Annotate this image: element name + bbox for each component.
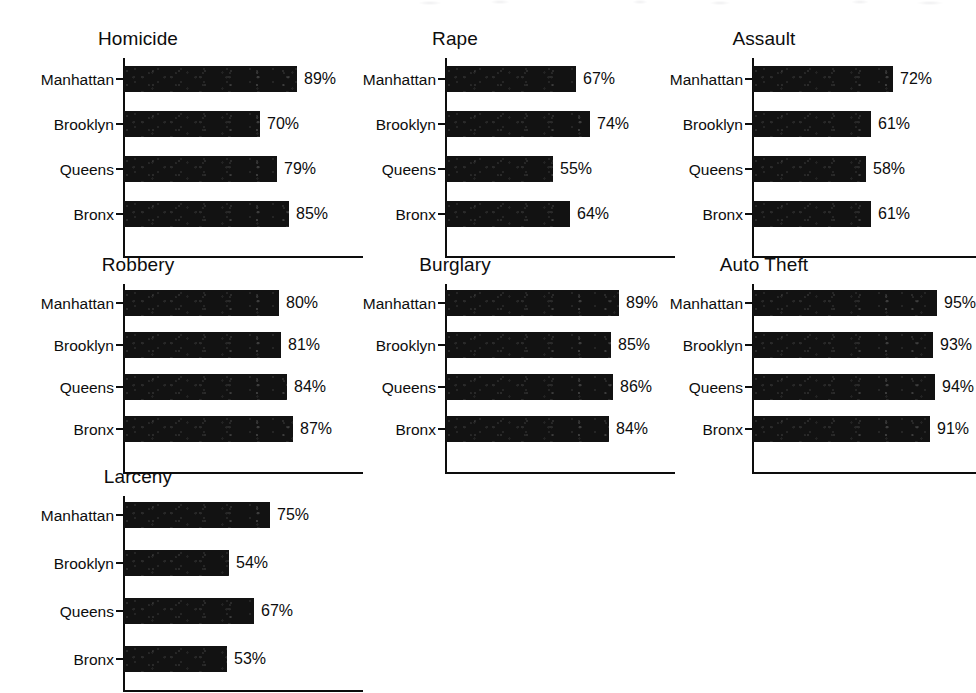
y-axis-tick: [116, 514, 123, 516]
bar-value-label: 75%: [277, 506, 309, 524]
y-axis-tick: [116, 302, 123, 304]
bar-row: Queens86%: [445, 374, 675, 400]
category-label: Brooklyn: [376, 337, 436, 354]
bar: [446, 66, 576, 92]
chart-title: Robbery: [18, 254, 258, 276]
y-axis-tick: [745, 123, 752, 125]
category-label: Bronx: [396, 206, 437, 223]
bar-row: Bronx53%: [123, 646, 363, 672]
y-axis-tick: [116, 610, 123, 612]
scan-artifact: [300, 0, 976, 9]
bar-value-label: 94%: [942, 378, 974, 396]
bar-row: Bronx61%: [752, 201, 976, 227]
category-label: Brooklyn: [54, 555, 114, 572]
bar: [124, 598, 254, 624]
bar-value-label: 89%: [626, 294, 658, 312]
category-label: Manhattan: [41, 71, 114, 88]
bar: [124, 502, 270, 528]
x-axis-line: [445, 472, 675, 474]
bar-value-label: 79%: [284, 160, 316, 178]
plot-area: Manhattan75%Brooklyn54%Queens67%Bronx53%: [123, 496, 363, 692]
y-axis-tick: [745, 78, 752, 80]
bar-row: Brooklyn54%: [123, 550, 363, 576]
bar: [753, 111, 871, 137]
bar: [446, 156, 553, 182]
bar-value-label: 64%: [577, 205, 609, 223]
category-label: Queens: [60, 161, 114, 178]
category-label: Bronx: [74, 651, 115, 668]
y-axis-tick: [745, 168, 752, 170]
y-axis-tick: [745, 302, 752, 304]
category-label: Manhattan: [41, 295, 114, 312]
bar-value-label: 93%: [940, 336, 972, 354]
bar-value-label: 61%: [878, 205, 910, 223]
bar-row: Queens55%: [445, 156, 675, 182]
y-axis-tick: [438, 78, 445, 80]
bar-value-label: 85%: [296, 205, 328, 223]
y-axis-tick: [116, 428, 123, 430]
bar: [446, 332, 611, 358]
bar: [124, 374, 287, 400]
category-label: Manhattan: [670, 71, 743, 88]
bar-row: Manhattan95%: [752, 290, 976, 316]
bar: [124, 646, 227, 672]
bar-value-label: 67%: [261, 602, 293, 620]
bar-value-label: 91%: [937, 420, 969, 438]
category-label: Queens: [689, 379, 743, 396]
bar-row: Bronx84%: [445, 416, 675, 442]
category-label: Queens: [60, 603, 114, 620]
category-label: Manhattan: [363, 71, 436, 88]
category-label: Queens: [382, 379, 436, 396]
y-axis-tick: [438, 168, 445, 170]
bar: [753, 156, 866, 182]
bar-value-label: 80%: [286, 294, 318, 312]
bar: [446, 201, 570, 227]
bar-value-label: 72%: [900, 70, 932, 88]
plot-area: Manhattan89%Brooklyn70%Queens79%Bronx85%: [123, 58, 363, 258]
bar-row: Manhattan72%: [752, 66, 976, 92]
y-axis-tick: [745, 213, 752, 215]
bar-row: Queens94%: [752, 374, 976, 400]
bar-value-label: 55%: [560, 160, 592, 178]
category-label: Bronx: [396, 421, 437, 438]
bar-value-label: 61%: [878, 115, 910, 133]
bar: [124, 290, 279, 316]
bar: [446, 374, 613, 400]
category-label: Bronx: [703, 421, 744, 438]
bar: [446, 416, 609, 442]
category-label: Queens: [60, 379, 114, 396]
bar-row: Queens79%: [123, 156, 363, 182]
category-label: Bronx: [74, 206, 115, 223]
bar-value-label: 87%: [300, 420, 332, 438]
bar-row: Manhattan75%: [123, 502, 363, 528]
y-axis-tick: [438, 123, 445, 125]
bar-row: Queens67%: [123, 598, 363, 624]
plot-area: Manhattan72%Brooklyn61%Queens58%Bronx61%: [752, 58, 976, 258]
category-label: Brooklyn: [54, 337, 114, 354]
bar: [446, 111, 590, 137]
bar: [124, 201, 289, 227]
y-axis-tick: [438, 386, 445, 388]
chart-title: Assault: [652, 28, 876, 50]
y-axis-tick: [745, 428, 752, 430]
bar-row: Brooklyn85%: [445, 332, 675, 358]
bar: [124, 156, 277, 182]
bar-value-label: 85%: [618, 336, 650, 354]
y-axis-tick: [438, 344, 445, 346]
bar-value-label: 58%: [873, 160, 905, 178]
bar-row: Manhattan80%: [123, 290, 363, 316]
bar-value-label: 70%: [267, 115, 299, 133]
plot-area: Manhattan95%Brooklyn93%Queens94%Bronx91%: [752, 284, 976, 474]
category-label: Manhattan: [363, 295, 436, 312]
bar-row: Manhattan67%: [445, 66, 675, 92]
x-axis-line: [752, 472, 976, 474]
y-axis-tick: [438, 428, 445, 430]
bar-value-label: 67%: [583, 70, 615, 88]
bar-value-label: 95%: [944, 294, 976, 312]
bar: [446, 290, 619, 316]
chart-title: Rape: [340, 28, 570, 50]
bar: [124, 550, 229, 576]
bar: [124, 111, 260, 137]
y-axis-tick: [116, 168, 123, 170]
category-label: Brooklyn: [683, 116, 743, 133]
